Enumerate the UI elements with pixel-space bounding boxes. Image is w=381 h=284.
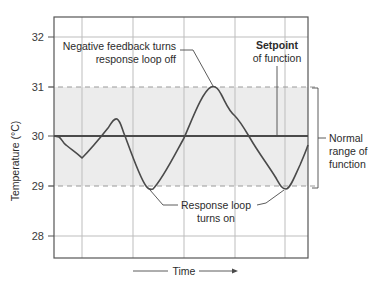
- y-tick-32: 32: [32, 31, 44, 43]
- x-axis-title: Time: [173, 265, 196, 277]
- y-tick-28: 28: [32, 230, 44, 242]
- response-leader-right: [257, 190, 284, 205]
- setpoint-label-bold: Setpoint: [256, 39, 298, 51]
- y-tick-31: 31: [32, 81, 44, 93]
- setpoint-label-rest: of function: [253, 52, 302, 64]
- homeostasis-diagram: 32 31 30 29 28 Temperature (°C) Negative…: [0, 0, 381, 284]
- normal-range-bracket: [312, 88, 318, 188]
- y-tick-30: 30: [32, 130, 44, 142]
- y-ticks: [48, 37, 54, 236]
- response-leader-left: [150, 190, 178, 205]
- response-label-line2: turns on: [197, 212, 235, 224]
- normal-range-label-line1: Normal: [329, 132, 363, 144]
- y-axis-title: Temperature (°C): [9, 121, 21, 202]
- normal-range-label-line3: function: [329, 158, 366, 170]
- response-label-line1: Response loop: [181, 199, 251, 211]
- neg-feedback-label-line1: Negative feedback turns: [63, 40, 176, 52]
- time-arrow-head-icon: [232, 269, 238, 274]
- y-tick-29: 29: [32, 180, 44, 192]
- normal-range-label-line2: range of: [329, 145, 368, 157]
- neg-feedback-label-line2: response loop off: [96, 53, 176, 65]
- neg-feedback-leader: [180, 50, 213, 86]
